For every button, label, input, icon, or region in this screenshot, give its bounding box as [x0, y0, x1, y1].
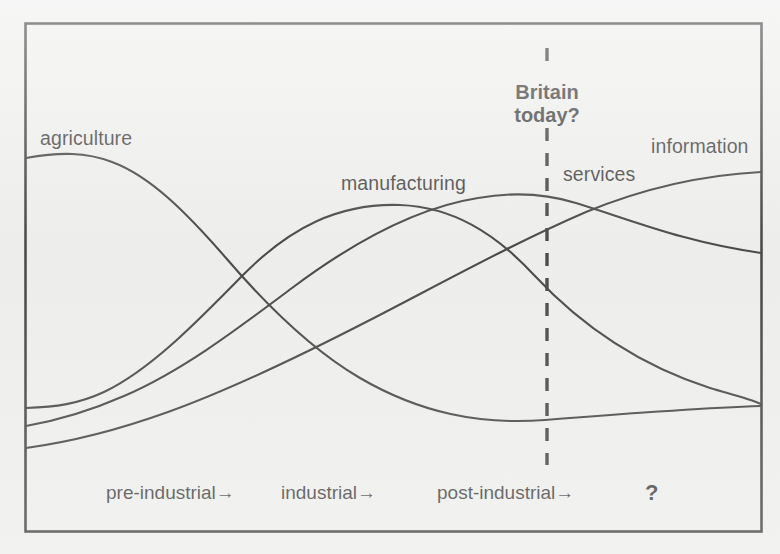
- series-label-information: information: [651, 135, 749, 157]
- annotation-britain-today-line2: today?: [514, 104, 580, 126]
- sector-shift-line-chart: Britain today? agriculture manufacturing…: [0, 0, 780, 554]
- series-label-services: services: [563, 163, 635, 185]
- axis-stage-label-unknown: ?: [645, 480, 658, 505]
- axis-stage-label-industrial: industrial→: [281, 482, 376, 503]
- chart-background: [0, 0, 780, 554]
- axis-stage-label-pre-industrial: pre-industrial→: [106, 482, 235, 503]
- annotation-britain-today-line1: Britain: [515, 81, 578, 103]
- axis-stage-label-post-industrial: post-industrial→: [437, 482, 574, 503]
- series-label-agriculture: agriculture: [40, 127, 132, 149]
- series-label-manufacturing: manufacturing: [341, 172, 466, 194]
- chart-figure: Britain today? agriculture manufacturing…: [0, 0, 780, 554]
